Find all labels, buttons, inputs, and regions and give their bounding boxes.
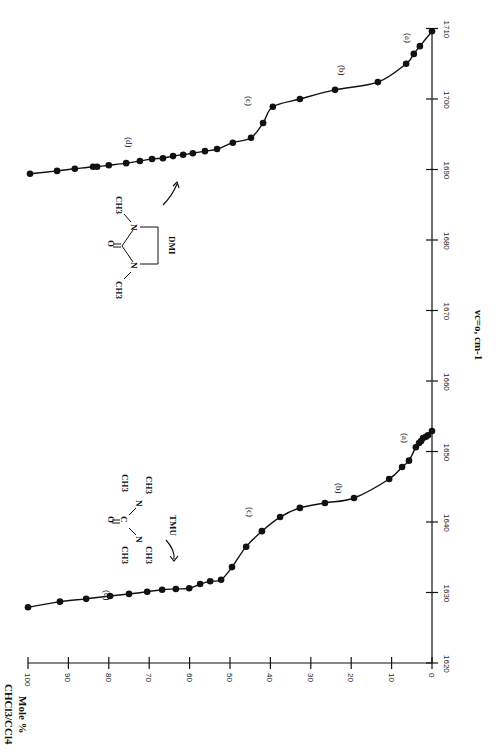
data-point bbox=[173, 586, 180, 593]
data-point bbox=[123, 160, 130, 167]
data-point bbox=[186, 585, 193, 592]
x-axis-title-line2: CHCl3/CCl4 bbox=[3, 684, 15, 745]
y-tick-label: 1660 bbox=[442, 373, 451, 391]
data-point bbox=[159, 586, 166, 593]
data-point bbox=[248, 134, 255, 141]
data-point bbox=[403, 60, 410, 67]
data-point bbox=[375, 79, 382, 86]
tmu-c: C bbox=[119, 516, 129, 523]
axis-titles: Mole % CHCl3/CCl4 νc=o, cm-1 bbox=[3, 309, 485, 745]
x-tick-label: 40 bbox=[265, 673, 274, 682]
y-tick-label: 1640 bbox=[442, 514, 451, 532]
data-point bbox=[180, 151, 187, 158]
data-point bbox=[27, 170, 34, 177]
y-tick-label: 1710 bbox=[442, 21, 451, 39]
data-point bbox=[137, 158, 144, 165]
dmi-label-a: (a) bbox=[403, 33, 413, 43]
data-point bbox=[243, 543, 250, 550]
data-point bbox=[351, 495, 358, 502]
dmi-arrow-icon bbox=[163, 184, 177, 205]
x-tick-label: 60 bbox=[185, 673, 194, 682]
dmi-n-top: N bbox=[129, 224, 139, 231]
data-point bbox=[190, 150, 197, 157]
data-point bbox=[170, 153, 177, 160]
chart: 0102030405060708090100162016301640165016… bbox=[0, 0, 501, 755]
data-point bbox=[429, 428, 436, 435]
data-point bbox=[218, 577, 225, 584]
data-point bbox=[94, 163, 101, 170]
data-point bbox=[411, 51, 418, 58]
tmu-structure: O C N N CH3 CH3 CH3 CH3 TMU bbox=[106, 474, 178, 565]
data-point bbox=[332, 87, 339, 94]
data-point bbox=[322, 500, 329, 507]
tmu-n-top: N bbox=[134, 500, 144, 507]
tmu-label-c: (c) bbox=[245, 507, 255, 517]
series-layer bbox=[25, 28, 436, 611]
y-tick-label: 1700 bbox=[442, 91, 451, 109]
tmu-ch3-3: CH3 bbox=[120, 546, 130, 565]
segment-labels: (d) (c) (b) (a) (d) (c) (b) (a) bbox=[102, 33, 413, 601]
tmu-label-a: (a) bbox=[400, 433, 410, 443]
data-point bbox=[106, 162, 113, 169]
y-tick-label: 1650 bbox=[442, 444, 451, 462]
data-point bbox=[197, 581, 204, 588]
tmu-ch3-2: CH3 bbox=[144, 476, 154, 495]
y-tick-label: 1690 bbox=[442, 162, 451, 180]
data-point bbox=[144, 588, 151, 595]
x-tick-label: 80 bbox=[104, 673, 113, 682]
data-point bbox=[230, 139, 237, 146]
series-line-dmi bbox=[30, 31, 432, 173]
data-point bbox=[277, 514, 284, 521]
data-point bbox=[297, 96, 304, 103]
dmi-label-b: (b) bbox=[337, 65, 347, 76]
x-tick-label: 0 bbox=[427, 673, 436, 678]
dmi-ch3-bottom: CH3 bbox=[114, 281, 124, 300]
dmi-label-d: (d) bbox=[124, 137, 134, 148]
dmi-structure: O N N CH3 CH3 DMI bbox=[106, 182, 179, 300]
series-line-tmu bbox=[28, 431, 432, 607]
data-point bbox=[270, 103, 277, 110]
data-point bbox=[72, 165, 79, 172]
y-axis-title: νc=o, cm-1 bbox=[473, 309, 485, 360]
tmu-n-bottom: N bbox=[134, 536, 144, 543]
x-axis-title-line1: Mole % bbox=[17, 696, 29, 734]
data-point bbox=[297, 505, 304, 512]
data-point bbox=[83, 596, 90, 603]
data-point bbox=[417, 43, 424, 50]
x-tick-label: 30 bbox=[306, 673, 315, 682]
data-point bbox=[229, 564, 236, 571]
x-tick-label: 10 bbox=[387, 673, 396, 682]
tmu-ch3-4: CH3 bbox=[144, 546, 154, 565]
data-point bbox=[54, 168, 61, 175]
data-point bbox=[259, 528, 266, 535]
y-tick-label: 1670 bbox=[442, 303, 451, 321]
x-tick-label: 90 bbox=[63, 673, 72, 682]
y-tick-label: 1620 bbox=[442, 655, 451, 673]
data-point bbox=[57, 598, 64, 605]
data-point bbox=[25, 604, 32, 611]
dmi-ch3-top: CH3 bbox=[114, 196, 124, 215]
data-point bbox=[149, 156, 156, 163]
x-tick-label: 70 bbox=[144, 673, 153, 682]
data-point bbox=[260, 120, 267, 127]
axes: 0102030405060708090100162016301640165016… bbox=[23, 21, 451, 687]
x-tick-label: 50 bbox=[225, 673, 234, 682]
x-tick-label: 20 bbox=[346, 673, 355, 682]
data-point bbox=[214, 146, 221, 153]
tmu-name: TMU bbox=[168, 515, 178, 536]
tmu-label-b: (b) bbox=[334, 483, 344, 494]
data-point bbox=[429, 28, 436, 35]
dmi-label-c: (c) bbox=[244, 96, 254, 106]
dmi-n-bottom: N bbox=[129, 262, 139, 269]
data-point bbox=[399, 464, 406, 471]
data-point bbox=[126, 591, 133, 598]
tmu-label-d: (d) bbox=[102, 590, 112, 601]
x-tick-label: 100 bbox=[23, 673, 32, 687]
data-point bbox=[160, 155, 167, 162]
y-tick-label: 1630 bbox=[442, 585, 451, 603]
data-point bbox=[207, 578, 214, 585]
dmi-name: DMI bbox=[167, 236, 177, 255]
y-tick-label: 1680 bbox=[442, 232, 451, 250]
tmu-ch3-1: CH3 bbox=[120, 474, 130, 493]
data-point bbox=[406, 457, 413, 464]
